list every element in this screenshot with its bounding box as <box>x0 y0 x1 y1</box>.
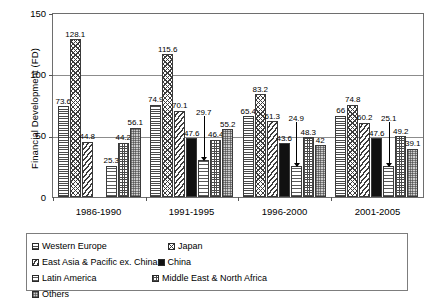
bar-slot: 43.6 <box>279 14 290 197</box>
legend-label: China <box>168 257 192 267</box>
bar-slot: 70.1 <box>174 14 185 197</box>
bar-value-label: 44.2 <box>115 134 131 142</box>
bar-western-europe[interactable]: 66 <box>335 116 346 197</box>
legend-swatch-icon <box>32 275 39 282</box>
legend-item-china[interactable]: China <box>158 254 294 270</box>
bar-slot: 65.4 <box>243 14 254 197</box>
bar-latin-america[interactable]: 24.9 <box>291 166 302 197</box>
bar-slot: 44.8 <box>82 14 93 197</box>
bar-china[interactable]: 47.6 <box>371 138 382 197</box>
legend-label: Others <box>42 289 69 299</box>
bar-value-label: 47.6 <box>369 130 385 138</box>
bar-slot: 29.7 <box>198 14 209 197</box>
bar-east-asia-pacific-ex-china[interactable]: 70.1 <box>174 111 185 197</box>
bar-group-1996-2000: 65.483.261.343.624.948.342 <box>238 14 331 197</box>
bar-slot: 48.3 <box>303 14 314 197</box>
legend-swatch-icon <box>32 259 39 266</box>
bar-east-asia-pacific-ex-china[interactable]: 61.3 <box>267 121 278 197</box>
bar-value-label: 39.1 <box>405 140 421 148</box>
bar-value-label: 60.2 <box>357 114 373 122</box>
bar-western-europe[interactable]: 74.9 <box>150 105 161 197</box>
bar-slot: 83.2 <box>255 14 266 197</box>
bar-japan[interactable]: 83.2 <box>255 94 266 197</box>
bar-value-label: 61.3 <box>264 113 280 121</box>
legend-label: Middle East & North Africa <box>162 273 267 283</box>
x-tick-1986-1990: 1986-1990 <box>52 206 145 217</box>
y-tick-50: 50 <box>20 131 46 141</box>
legend-label: Western Europe <box>42 241 107 251</box>
y-tick-100: 100 <box>20 70 46 80</box>
y-tick-0: 0 <box>20 193 46 203</box>
bar-value-label: 65.4 <box>240 108 256 116</box>
bar-value-label: 74.9 <box>148 96 164 104</box>
legend-item-others[interactable]: Others <box>32 286 168 302</box>
bar-others[interactable]: 39.1 <box>407 149 418 197</box>
bar-japan[interactable]: 115.6 <box>162 54 173 197</box>
x-tick-2001-2005: 2001-2005 <box>331 206 424 217</box>
bar-slot: 44.2 <box>118 14 129 197</box>
bar-latin-america[interactable]: 25.3 <box>106 166 117 197</box>
bar-middle-east-north-africa[interactable]: 48.3 <box>303 137 314 197</box>
bar-japan[interactable]: 128.1 <box>70 39 81 197</box>
bar-slot: 42 <box>315 14 326 197</box>
bar-group-2001-2005: 6674.860.247.625.149.239.1 <box>331 14 424 197</box>
bar-value-label: 42 <box>316 137 325 145</box>
legend-item-middle-east-north-africa[interactable]: Middle East & North Africa <box>152 270 267 286</box>
bar-value-label: 48.3 <box>300 129 316 137</box>
bar-latin-america[interactable]: 29.7 <box>198 160 209 197</box>
y-tick-150: 150 <box>20 9 46 19</box>
bar-slot: 46.4 <box>210 14 221 197</box>
legend-item-east-asia-pacific-ex-china[interactable]: East Asia & Pacific ex. China <box>32 254 158 270</box>
bar-value-label: 74.8 <box>345 96 361 104</box>
x-tick-1991-1995: 1991-1995 <box>145 206 238 217</box>
bar-others[interactable]: 42 <box>315 145 326 197</box>
bar-slot: 47.6 <box>186 14 197 197</box>
legend-label: Latin America <box>42 273 97 283</box>
legend-label: Japan <box>178 241 203 251</box>
bar-value-label: 44.8 <box>79 133 95 141</box>
legend-item-latin-america[interactable]: Latin America <box>32 270 152 286</box>
plot-area: 73.6128.144.825.344.256.174.9115.670.147… <box>52 13 424 198</box>
bar-slot: 73.6 <box>58 14 69 197</box>
bar-slot: 74.9 <box>150 14 161 197</box>
bar-slot: 47.6 <box>371 14 382 197</box>
bar-value-label: 56.1 <box>127 119 143 127</box>
bar-china[interactable]: 43.6 <box>279 143 290 197</box>
bar-value-label: 25.3 <box>103 157 119 165</box>
bar-slot: 74.8 <box>347 14 358 197</box>
bar-value-label: 66 <box>336 107 345 115</box>
bar-value-label: 43.6 <box>276 135 292 143</box>
bar-china[interactable]: 47.6 <box>186 138 197 197</box>
bar-slot: 39.1 <box>407 14 418 197</box>
bar-value-label: 46.4 <box>208 131 224 139</box>
legend-swatch-icon <box>152 275 159 282</box>
legend-swatch-icon <box>32 291 39 298</box>
bar-value-label: 73.6 <box>55 98 71 106</box>
bar-value-label: 70.1 <box>172 102 188 110</box>
bar-western-europe[interactable]: 65.4 <box>243 116 254 197</box>
bar-slot: 56.1 <box>130 14 141 197</box>
bar-value-label: 83.2 <box>252 86 268 94</box>
y-axis-tick-labels: 150 100 50 0 <box>14 0 46 200</box>
legend-label: East Asia & Pacific ex. China <box>42 257 158 267</box>
bar-western-europe[interactable]: 73.6 <box>58 106 69 197</box>
bar-groups: 73.6128.144.825.344.256.174.9115.670.147… <box>53 14 423 197</box>
bar-slot: 49.2 <box>395 14 406 197</box>
bar-value-label: 47.6 <box>184 130 200 138</box>
bar-value-label: 55.2 <box>220 121 236 129</box>
legend-item-japan[interactable]: Japan <box>168 238 288 254</box>
legend-item-western-europe[interactable]: Western Europe <box>32 238 168 254</box>
legend-swatch-icon <box>168 243 175 250</box>
bar-middle-east-north-africa[interactable]: 46.4 <box>210 140 221 197</box>
bar-slot: 25.3 <box>106 14 117 197</box>
bar-latin-america[interactable]: 25.1 <box>383 166 394 197</box>
bar-middle-east-north-africa[interactable]: 44.2 <box>118 143 129 198</box>
x-tick-1996-2000: 1996-2000 <box>238 206 331 217</box>
bar-east-asia-pacific-ex-china[interactable]: 44.8 <box>82 142 93 197</box>
leader-arrow-icon <box>296 122 297 166</box>
bar-slot: 25.1 <box>383 14 394 197</box>
bar-value-label: 49.2 <box>393 128 409 136</box>
bar-others[interactable]: 55.2 <box>222 129 233 197</box>
bar-others[interactable]: 56.1 <box>130 128 141 197</box>
bar-slot <box>94 14 105 197</box>
